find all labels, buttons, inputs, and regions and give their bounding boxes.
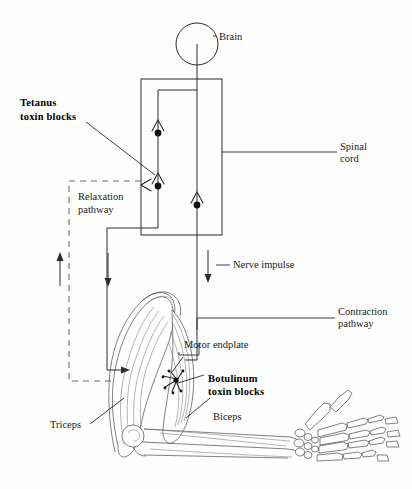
relaxation-input-chevron [141,179,151,191]
spinal-cord-outline [141,79,222,235]
forearm-lower-edge [144,455,288,458]
diagram-canvas: Brain Spinal cord Tetanus toxin blocks R… [0,0,412,489]
leader-contraction-pathway [197,318,335,330]
label-biceps: Biceps [213,411,242,422]
label-tetanus-line2: toxin blocks [20,111,76,122]
elbow-joint [122,425,144,447]
label-contraction-line2: pathway [338,318,374,329]
carpal-bones-group [294,429,319,459]
label-botulinum-line2: toxin blocks [208,386,264,397]
arrow-down-icon-relaxation [105,253,112,287]
direction-arrows-group [57,250,212,287]
label-relaxation-line2: pathway [78,204,114,215]
label-motor-endplate: Motor endplate [184,339,249,350]
label-relaxation-line1: Relaxation [78,191,124,202]
neuromuscular-diagram: Brain Spinal cord Tetanus toxin blocks R… [0,0,412,489]
synapse-terminal-icon-lower [141,173,164,191]
label-spinal-cord-line2: cord [340,153,359,164]
label-nerve-impulse: Nerve impulse [233,259,295,270]
interneuron-tract [158,90,197,228]
relaxation-efferent-tract [107,228,158,300]
synapse-markers-group [141,120,203,208]
label-spinal-cord-line1: Spinal [340,141,367,152]
label-triceps: Triceps [50,419,81,430]
label-tetanus-line1: Tetanus [20,97,57,108]
label-contraction-line1: Contraction [338,306,388,317]
spinal-cord-group [107,79,222,330]
arrow-down-icon-nerve-impulse [205,250,212,283]
brain-group [176,23,218,79]
finger-bones-group [317,415,400,461]
label-brain: Brain [219,31,243,42]
label-botulinum-line1: Botulinum [208,373,258,384]
leader-tetanus [86,122,155,175]
arrow-up-icon [57,252,64,286]
ulna-bone [142,442,298,451]
